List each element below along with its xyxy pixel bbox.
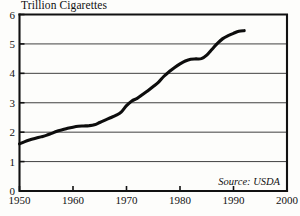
y-axis-label: 1: [10, 156, 16, 168]
x-axis-label: 1990: [223, 194, 246, 206]
source-annotation: Source: USDA: [218, 176, 280, 187]
y-axis-label: 6: [10, 9, 16, 21]
x-axis-label: 2000: [276, 194, 299, 206]
y-axis-label: 4: [10, 67, 16, 79]
x-axis-label: 1980: [169, 194, 192, 206]
chart-title: Trillion Cigarettes: [21, 0, 107, 11]
y-axis-label: 2: [10, 126, 16, 138]
chart-container: Trillion Cigarettes 0123456 195019601970…: [0, 0, 300, 216]
x-axis-labels-group: 195019601970198019902000: [9, 194, 299, 206]
gridlines-group: [20, 44, 288, 162]
y-axis-labels-group: 0123456: [10, 9, 16, 198]
y-axis-label: 3: [10, 97, 16, 109]
x-axis-label: 1960: [62, 194, 85, 206]
data-series-line: [20, 31, 245, 144]
x-axis-label: 1950: [9, 194, 32, 206]
x-axis-label: 1970: [116, 194, 139, 206]
y-axis-label: 5: [10, 38, 16, 50]
